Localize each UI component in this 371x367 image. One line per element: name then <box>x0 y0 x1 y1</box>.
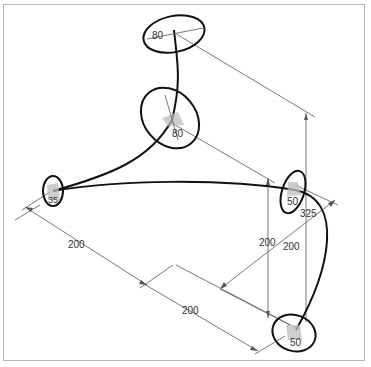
section-top: 80 <box>140 10 208 58</box>
dim-vertical-middle: 200 <box>259 237 276 248</box>
sweep-diagram: 80 80 35 50 50 200 200 200 200 325 <box>0 0 371 367</box>
section-bottom-label: 50 <box>290 337 302 348</box>
section-upper-middle: 80 <box>129 76 211 160</box>
section-left-label: 35 <box>48 195 58 205</box>
section-right-label: 50 <box>287 196 299 207</box>
section-left: 35 <box>43 176 63 206</box>
section-upper-middle-label: 80 <box>172 128 184 139</box>
dim-left-lower: 200 <box>68 239 85 250</box>
dim-bottom-left: 200 <box>182 305 199 316</box>
dim-diagonal-right: 200 <box>283 241 300 252</box>
dim-vertical-right: 325 <box>300 208 317 219</box>
section-top-label: 80 <box>152 30 164 41</box>
section-bottom: 50 <box>267 309 321 358</box>
